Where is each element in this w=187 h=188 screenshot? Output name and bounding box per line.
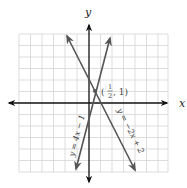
coordinate-graph: x y ( 1 2 , 1) y = 4x − 1 y = −2x + 2 [0, 0, 187, 188]
intersection-point [93, 89, 97, 93]
equation-label-line-2: y = −2x + 2 [115, 106, 146, 155]
intersection-frac-num: 1 [108, 83, 112, 91]
y-axis-label: y [84, 6, 92, 19]
intersection-label-rest: , 1) [113, 87, 128, 97]
intersection-frac-den: 2 [108, 92, 112, 100]
x-axis-label: x [179, 97, 186, 110]
intersection-label-open: ( [101, 87, 105, 97]
equation-label-line-1: y = 4x − 1 [67, 114, 87, 159]
